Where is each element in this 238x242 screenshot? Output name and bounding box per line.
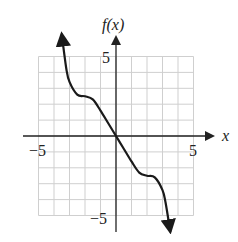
x-axis-arrow-icon bbox=[205, 131, 215, 141]
y-axis-arrow-icon bbox=[111, 35, 121, 45]
y-tick-min: −5 bbox=[90, 210, 107, 227]
y-tick-max: 5 bbox=[102, 49, 110, 66]
x-axis-title: x bbox=[221, 127, 229, 144]
x-tick-min: −5 bbox=[29, 142, 46, 159]
function-graph: f(x) x −5 5 5 −5 bbox=[0, 0, 238, 242]
x-tick-max: 5 bbox=[189, 142, 197, 159]
y-axis-title: f(x) bbox=[102, 16, 124, 34]
